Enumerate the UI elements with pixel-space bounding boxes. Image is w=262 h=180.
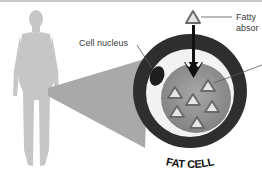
cell-nucleus-label: Cell nucleus	[79, 38, 128, 48]
fatty-label-line2: absor	[236, 23, 259, 33]
fatty-label-line1: Fatty	[236, 12, 256, 22]
fat-cell-diagram: FAT CELL	[0, 0, 262, 180]
magnification-cone	[48, 58, 148, 148]
triangle-icon	[186, 11, 200, 23]
fat-cell-label: FAT CELL	[165, 155, 215, 170]
fat-cell	[133, 34, 247, 148]
